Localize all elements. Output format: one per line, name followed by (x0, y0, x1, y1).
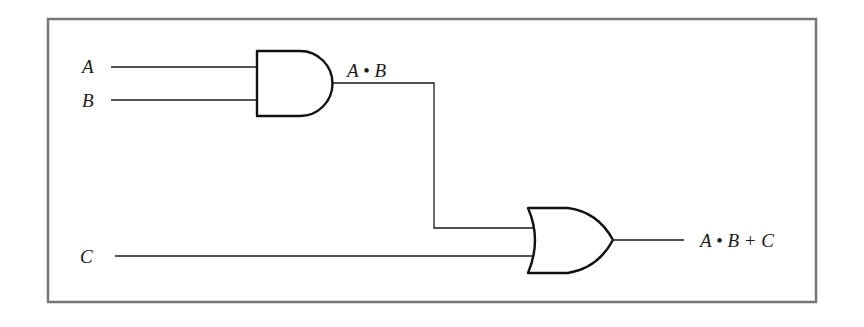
and-gate-icon (257, 51, 333, 116)
logic-circuit-diagram: A B C A • B A • B + C (0, 0, 864, 327)
or-output-label: A • B + C (698, 230, 774, 251)
or-gate-icon (528, 208, 613, 273)
input-label-a: A (80, 56, 94, 77)
diagram-frame (48, 19, 816, 302)
and-output-label: A • B (345, 60, 386, 81)
input-label-b: B (82, 90, 94, 111)
wire-and-output (333, 83, 534, 228)
input-label-c: C (80, 246, 93, 267)
